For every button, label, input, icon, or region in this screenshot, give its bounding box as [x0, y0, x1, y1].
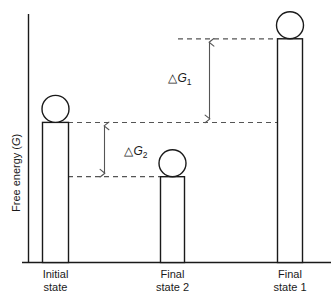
- annotation-arrow-delta-g2: △G2: [105, 126, 148, 173]
- bar-initial-state: [42, 95, 69, 262]
- annotation-label-delta-g2: △G2: [124, 144, 147, 160]
- y-axis-label: Free energy (G): [10, 134, 22, 212]
- annotation-arrow-delta-g1: △G1: [168, 42, 209, 119]
- bar-final-state-2: [159, 150, 186, 263]
- y-axis-label-group: Free energy (G): [10, 134, 22, 212]
- bar-rect-initial-state: [43, 122, 69, 262]
- category-label-final-state-1-line2: state 1: [273, 281, 306, 293]
- free-energy-diagram: Free energy (G) △G1: [0, 0, 335, 304]
- bar-final-state-1: [277, 12, 304, 263]
- category-label-final-state-2-line2: state 2: [156, 281, 189, 293]
- category-labels: Initial state Final state 2 Final state …: [43, 268, 307, 293]
- bar-rect-final-state-2: [161, 177, 185, 263]
- annotation-label-delta-g1: △G1: [168, 71, 191, 87]
- category-label-initial-state-line2: state: [44, 281, 68, 293]
- category-label-final-state-1-line1: Final: [278, 268, 302, 280]
- marker-circle-final-state-1: [277, 12, 304, 39]
- marker-circle-final-state-2: [159, 150, 186, 177]
- marker-circle-initial-state: [42, 95, 69, 122]
- category-label-final-state-2-line1: Final: [161, 268, 185, 280]
- category-label-initial-state-line1: Initial: [43, 268, 69, 280]
- bar-rect-final-state-1: [278, 39, 303, 263]
